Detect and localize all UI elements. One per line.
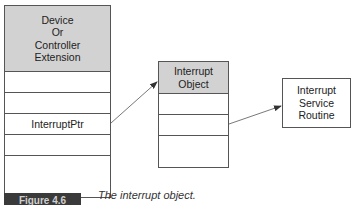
pointer-arrow-to-isr (229, 106, 281, 124)
figure-caption: The interrupt object. (98, 189, 196, 201)
arrows-layer (0, 0, 354, 205)
figure-label: Figure 4.6 (4, 193, 81, 205)
pointer-arrow-to-object (111, 82, 157, 123)
